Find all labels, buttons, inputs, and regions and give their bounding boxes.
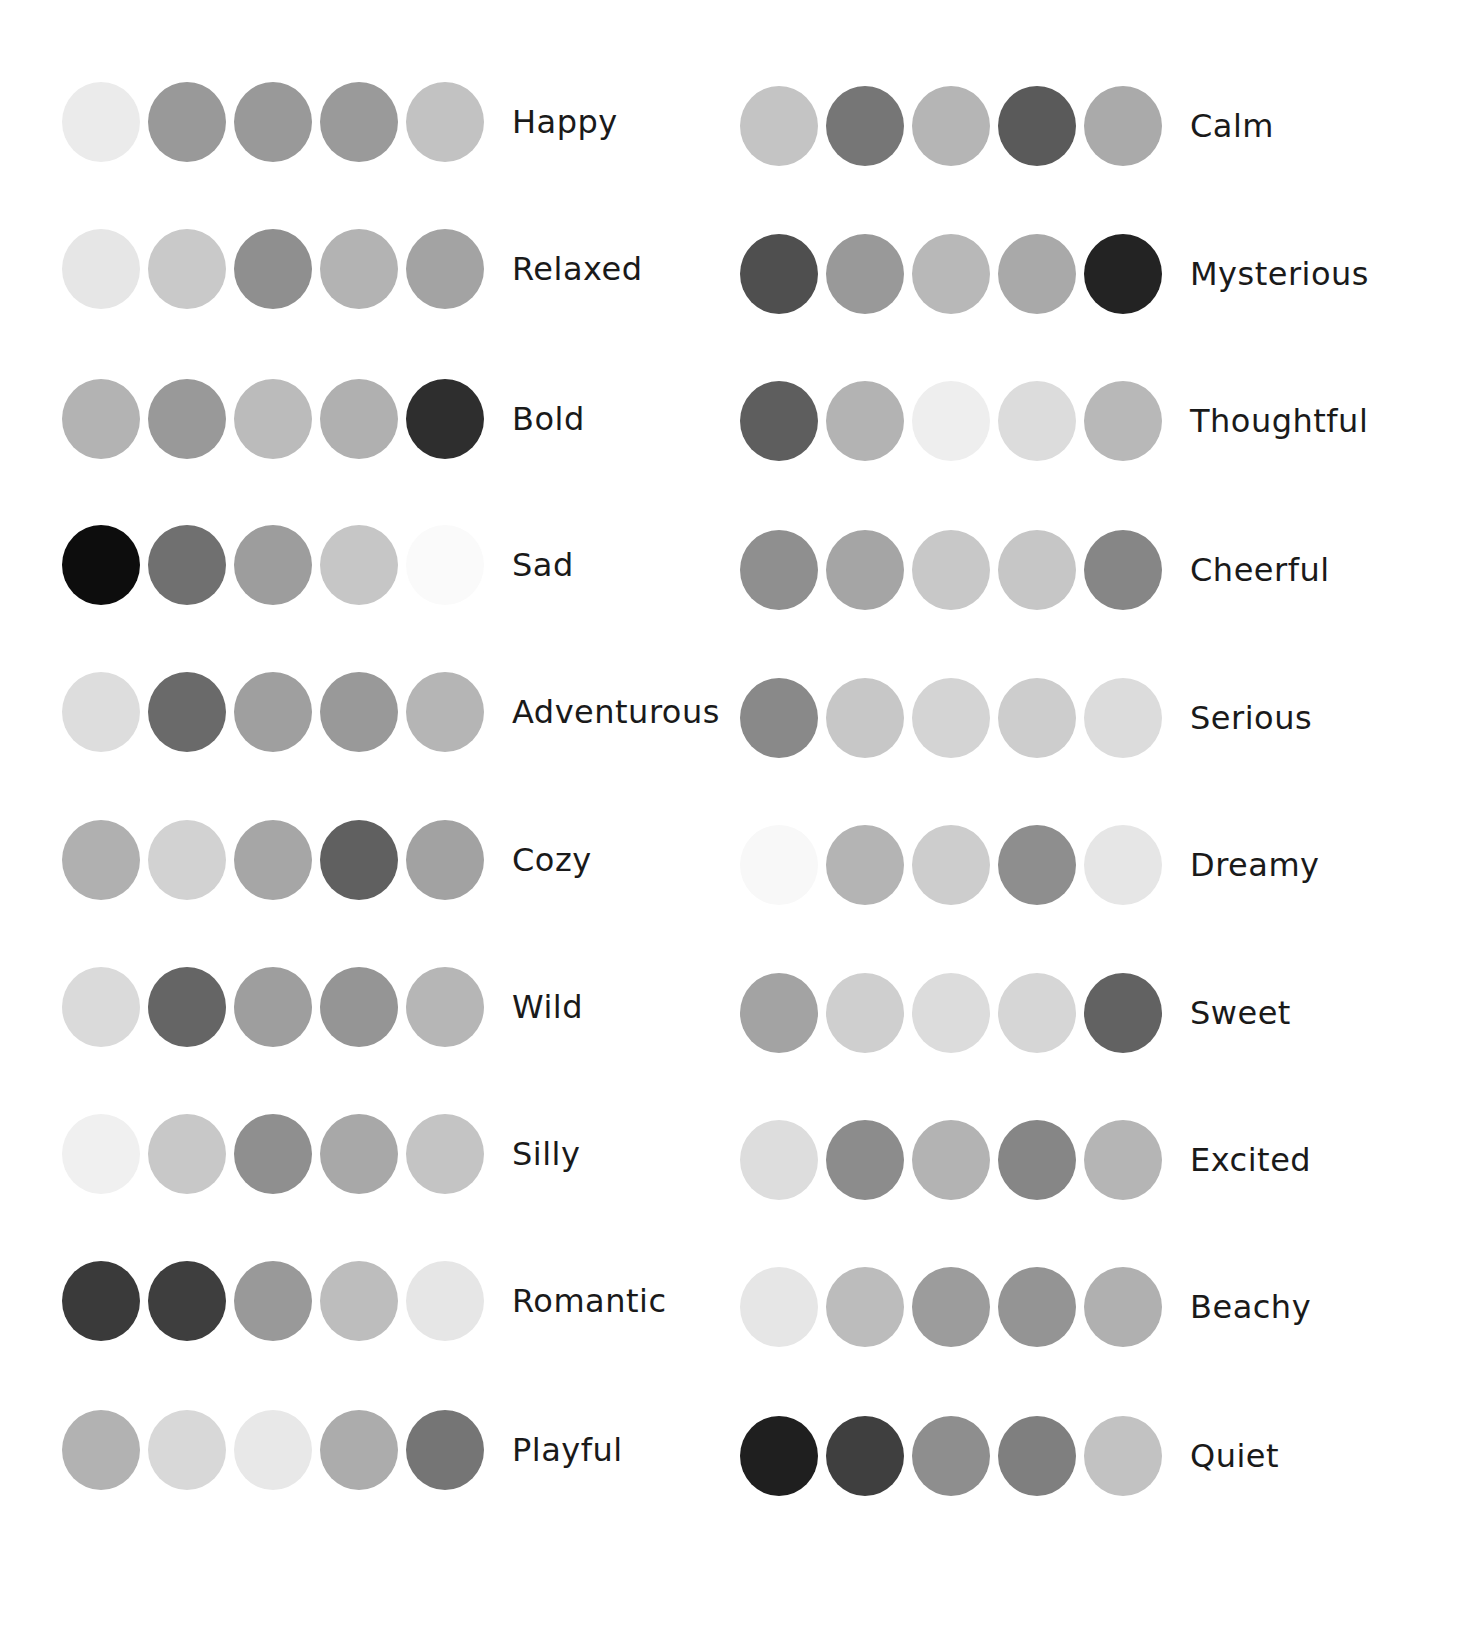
color-swatch <box>62 525 140 605</box>
color-swatch <box>406 820 484 900</box>
color-swatch <box>406 229 484 309</box>
color-swatch <box>148 967 226 1047</box>
color-swatch <box>234 379 312 459</box>
mood-label: Cheerful <box>1190 551 1330 589</box>
color-swatch <box>1084 973 1162 1053</box>
mood-label: Bold <box>512 400 585 438</box>
color-swatch <box>912 381 990 461</box>
palette-row: Quiet <box>740 1416 1279 1496</box>
color-swatch <box>406 672 484 752</box>
palette-row: Sad <box>62 525 574 605</box>
mood-label: Excited <box>1190 1141 1311 1179</box>
color-swatch <box>320 525 398 605</box>
palette-row: Cozy <box>62 820 592 900</box>
color-swatch <box>148 379 226 459</box>
color-swatch <box>62 1410 140 1490</box>
color-swatch <box>234 672 312 752</box>
color-swatch <box>62 820 140 900</box>
palette-row: Bold <box>62 379 585 459</box>
color-swatch <box>148 1410 226 1490</box>
color-swatch <box>148 525 226 605</box>
palette-row: Adventurous <box>62 672 720 752</box>
palette-row: Relaxed <box>62 229 642 309</box>
color-swatch <box>320 379 398 459</box>
color-swatch <box>406 1114 484 1194</box>
swatch-group <box>62 82 484 162</box>
swatch-group <box>740 678 1162 758</box>
swatch-group <box>740 530 1162 610</box>
mood-label: Relaxed <box>512 250 642 288</box>
color-swatch <box>998 381 1076 461</box>
swatch-group <box>62 229 484 309</box>
mood-label: Beachy <box>1190 1288 1311 1326</box>
color-swatch <box>998 234 1076 314</box>
palette-row: Beachy <box>740 1267 1311 1347</box>
mood-label: Adventurous <box>512 693 720 731</box>
color-swatch <box>826 1416 904 1496</box>
color-swatch <box>234 820 312 900</box>
color-swatch <box>1084 381 1162 461</box>
color-swatch <box>1084 825 1162 905</box>
mood-label: Romantic <box>512 1282 666 1320</box>
palette-row: Serious <box>740 678 1312 758</box>
color-swatch <box>740 530 818 610</box>
color-swatch <box>320 229 398 309</box>
swatch-group <box>740 1120 1162 1200</box>
mood-label: Mysterious <box>1190 255 1369 293</box>
color-swatch <box>740 381 818 461</box>
color-swatch <box>826 86 904 166</box>
color-swatch <box>320 1261 398 1341</box>
color-swatch <box>826 1120 904 1200</box>
color-swatch <box>826 973 904 1053</box>
color-swatch <box>740 973 818 1053</box>
palette-row: Dreamy <box>740 825 1320 905</box>
palette-row: Silly <box>62 1114 580 1194</box>
color-swatch <box>740 86 818 166</box>
color-swatch <box>740 1120 818 1200</box>
color-swatch <box>998 1416 1076 1496</box>
color-swatch <box>320 820 398 900</box>
mood-label: Sad <box>512 546 574 584</box>
palette-row: Romantic <box>62 1261 666 1341</box>
color-swatch <box>912 973 990 1053</box>
color-swatch <box>826 678 904 758</box>
mood-label: Quiet <box>1190 1437 1279 1475</box>
color-swatch <box>1084 530 1162 610</box>
color-swatch <box>740 678 818 758</box>
color-swatch <box>912 530 990 610</box>
color-swatch <box>826 234 904 314</box>
mood-label: Cozy <box>512 841 592 879</box>
swatch-group <box>740 973 1162 1053</box>
color-swatch <box>1084 678 1162 758</box>
color-swatch <box>826 1267 904 1347</box>
color-swatch <box>406 1261 484 1341</box>
color-swatch <box>826 825 904 905</box>
color-swatch <box>406 967 484 1047</box>
color-swatch <box>234 525 312 605</box>
swatch-group <box>740 234 1162 314</box>
color-swatch <box>998 1120 1076 1200</box>
color-swatch <box>406 379 484 459</box>
palette-row: Excited <box>740 1120 1311 1200</box>
color-swatch <box>1084 1120 1162 1200</box>
mood-label: Serious <box>1190 699 1312 737</box>
color-swatch <box>62 1261 140 1341</box>
mood-label: Thoughtful <box>1190 402 1368 440</box>
mood-label: Wild <box>512 988 583 1026</box>
swatch-group <box>740 1267 1162 1347</box>
color-swatch <box>740 1416 818 1496</box>
color-swatch <box>406 82 484 162</box>
color-swatch <box>912 1120 990 1200</box>
swatch-group <box>62 1410 484 1490</box>
color-swatch <box>912 86 990 166</box>
swatch-group <box>62 820 484 900</box>
mood-label: Calm <box>1190 107 1274 145</box>
color-swatch <box>998 973 1076 1053</box>
color-swatch <box>912 678 990 758</box>
color-swatch <box>234 1114 312 1194</box>
swatch-group <box>740 86 1162 166</box>
color-swatch <box>148 1114 226 1194</box>
palette-row: Cheerful <box>740 530 1330 610</box>
palette-row: Calm <box>740 86 1274 166</box>
mood-label: Happy <box>512 103 618 141</box>
